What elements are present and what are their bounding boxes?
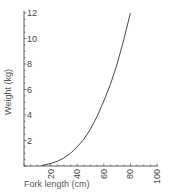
x-tick-label: 40 (72, 169, 82, 179)
x-axis-title: Fork length (cm) (24, 179, 90, 189)
y-tick-label: 8 (27, 59, 32, 69)
x-tick-label: 20 (46, 169, 56, 179)
x-tick-label: 80 (125, 169, 135, 179)
x-tick-label: 60 (99, 169, 109, 179)
y-tick-label: 10 (27, 34, 37, 44)
y-axis: 24681012 (24, 8, 37, 166)
x-tick-label: 100 (152, 169, 162, 184)
y-tick-label: 12 (27, 8, 37, 18)
y-tick-label: 4 (27, 110, 32, 120)
y-tick-label: 2 (27, 136, 32, 146)
chart: 24681012 20406080100 Weight (kg) Fork le… (0, 0, 169, 195)
y-tick-label: 6 (27, 85, 32, 95)
weight-curve (41, 13, 130, 166)
y-axis-title: Weight (kg) (3, 69, 13, 115)
